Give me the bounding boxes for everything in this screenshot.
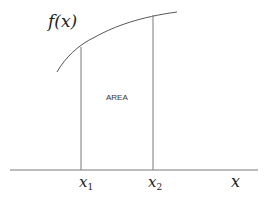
- axis-label: x: [231, 172, 240, 191]
- x1-label: x1: [79, 173, 93, 192]
- x2-label: x2: [148, 173, 162, 192]
- area-label: AREA: [106, 93, 128, 102]
- diagram-svg: f(x) AREA x1 x2 x: [0, 0, 265, 198]
- x2-label-sub: 2: [156, 182, 162, 192]
- integral-area-diagram: f(x) AREA x1 x2 x: [0, 0, 265, 198]
- x1-label-sub: 1: [87, 182, 93, 192]
- function-label: f(x): [46, 11, 77, 31]
